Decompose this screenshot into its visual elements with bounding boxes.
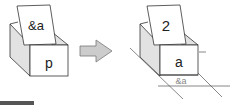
right-box-card-label: 2 (162, 17, 170, 34)
memory-line (198, 73, 222, 97)
bottom-bar (0, 101, 34, 105)
left-box-card-label: &a (28, 18, 45, 33)
right-arrow-icon (80, 40, 112, 62)
address-label: &a (175, 76, 186, 86)
right-box-label: a (175, 54, 183, 70)
pointer-diagram: &a p 2 a &a (0, 0, 233, 105)
left-box-label: p (45, 55, 53, 71)
left-box: &a p (10, 5, 68, 76)
right-box: 2 a &a (130, 5, 230, 99)
